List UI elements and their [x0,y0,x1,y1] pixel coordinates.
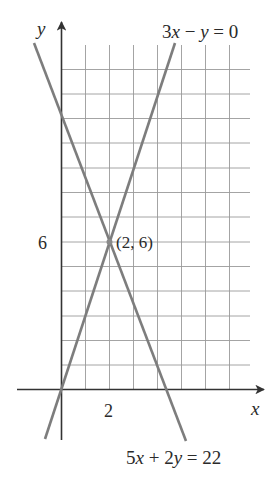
grid-horizontal-lines [62,70,251,366]
x-tick-label-2: 2 [104,401,113,421]
eq2-mid: + 2 [144,447,174,468]
equation-label-3x-minus-y: 3x − y = 0 [162,21,238,42]
eq1-coef: 3 [162,21,172,42]
eq1-y: y [198,21,209,42]
eq2-coef: 5 [126,447,136,468]
y-axis-label: y [35,18,46,39]
eq2-y: y [172,447,183,468]
intersection-point [107,239,113,245]
intersection-label: (2, 6) [116,233,153,252]
x-axis-label: x [250,398,260,419]
eq1-op: − [180,21,200,42]
equation-label-5x-plus-2y: 5x + 2y = 22 [126,447,221,468]
grid [62,45,251,389]
eq2-tail: = 22 [182,447,221,468]
y-tick-label-6: 6 [38,233,47,253]
linear-system-graph: y x 6 2 (2, 6) 3x − y = 0 5x + 2y = 22 [0,0,277,483]
eq1-tail: = 0 [209,21,239,42]
